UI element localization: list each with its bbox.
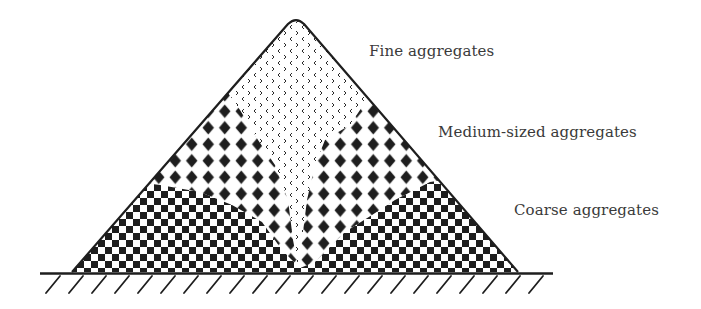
- label-coarse-aggregates: Coarse aggregates: [514, 201, 659, 219]
- stockpile-diagram: Fine aggregates Medium-sized aggregates …: [0, 0, 701, 309]
- label-medium-aggregates: Medium-sized aggregates: [438, 123, 637, 141]
- ground-hatching: [46, 276, 543, 293]
- label-fine-aggregates: Fine aggregates: [369, 42, 494, 60]
- stockpile-figure: [0, 0, 701, 309]
